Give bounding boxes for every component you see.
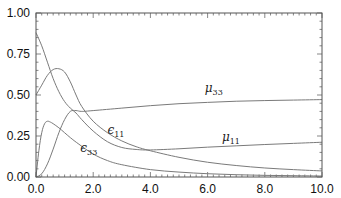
- x-tick-label: 4.0: [142, 182, 159, 196]
- x-axis-tick-labels: 0.02.04.06.08.010.0: [28, 182, 334, 196]
- curve-label: ϵ11: [108, 123, 125, 139]
- y-tick-label: 0.75: [7, 47, 31, 61]
- x-tick-label: 10.0: [310, 182, 334, 196]
- x-tick-label: 2.0: [85, 182, 102, 196]
- y-tick-label: 0.00: [7, 170, 31, 184]
- y-tick-label: 0.50: [7, 88, 31, 102]
- line-chart: 0.02.04.06.08.010.0 0.000.250.500.751.00…: [0, 0, 341, 198]
- y-axis-tick-labels: 0.000.250.500.751.00: [7, 6, 31, 184]
- curve-label: μ11: [222, 130, 240, 146]
- curve-label: μ33: [205, 81, 223, 97]
- plot-frame: [36, 13, 322, 177]
- x-tick-label: 8.0: [256, 182, 273, 196]
- curve-labels: μ33μ11ϵ11ϵ33: [80, 81, 240, 158]
- curve-3bc-33: [36, 100, 322, 177]
- curve-3bc-11: [36, 33, 322, 150]
- curve-label: ϵ33: [80, 141, 97, 157]
- curve-3f5-11: [36, 69, 322, 171]
- y-tick-label: 0.25: [7, 129, 31, 143]
- x-tick-label: 0.0: [28, 182, 45, 196]
- x-tick-label: 6.0: [199, 182, 216, 196]
- axis-ticks: [36, 13, 322, 177]
- y-tick-label: 1.00: [7, 6, 31, 20]
- curves: [36, 33, 322, 177]
